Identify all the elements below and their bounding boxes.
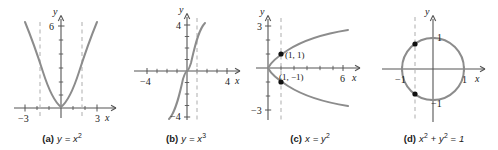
caption-d-equation: x2 + y2 = 1 bbox=[419, 133, 464, 144]
y-axis-label-b: y bbox=[178, 4, 184, 15]
x-axis-label-b: x bbox=[234, 75, 240, 86]
panel-d: −1 1 x 1 −1 y (d)x2 + y2 = 1 bbox=[372, 0, 496, 150]
panel-a: −3 3 x 6 y (a)y = x2 bbox=[0, 0, 124, 150]
x-axis-a bbox=[14, 105, 116, 112]
plot-d-unit-circle: −1 1 x 1 −1 y bbox=[372, 0, 496, 126]
caption-b-tag: (b) bbox=[166, 133, 178, 144]
x-tick-label-a-neg3: −3 bbox=[18, 113, 29, 124]
caption-d-tag: (d) bbox=[404, 133, 416, 144]
y-tick-label-b-4: 4 bbox=[176, 20, 181, 31]
plot-a-y-equals-x-squared: −3 3 x 6 y bbox=[0, 0, 124, 126]
point-label-c-1-1: (1, 1) bbox=[285, 50, 305, 60]
x-tick-label-b-4: 4 bbox=[225, 76, 230, 87]
y-axis-a bbox=[58, 16, 65, 119]
caption-c-equation: x = y2 bbox=[305, 133, 330, 144]
x-tick-label-d-1: 1 bbox=[462, 74, 467, 85]
caption-b: (b)y = x3 bbox=[124, 132, 248, 144]
caption-c: (c)x = y2 bbox=[248, 132, 372, 144]
caption-a: (a)y = x2 bbox=[0, 132, 124, 144]
caption-b-equation: y = x3 bbox=[181, 133, 206, 144]
plot-c-x-equals-y-squared: (1, 1) (1, −1) 6 x 3 −3 y bbox=[248, 0, 372, 126]
point-c-1-1 bbox=[278, 51, 283, 56]
plot-b-y-equals-x-cubed: −4 4 x 4 −4 y bbox=[124, 0, 248, 126]
y-tick-label-d-neg1: −1 bbox=[431, 98, 442, 109]
y-axis-label-d: y bbox=[424, 6, 430, 17]
y-tick-label-a-6: 6 bbox=[49, 21, 54, 32]
panel-b: −4 4 x 4 −4 y (b)y = x3 bbox=[124, 0, 248, 150]
x-axis-label-c: x bbox=[351, 72, 357, 83]
x-tick-label-a-3: 3 bbox=[95, 113, 100, 124]
y-axis-label-c: y bbox=[259, 6, 265, 17]
point-label-c-1-neg1: (1, −1) bbox=[279, 72, 304, 82]
y-axis-label-a: y bbox=[52, 6, 58, 17]
x-tick-label-d-neg1: −1 bbox=[395, 74, 406, 85]
caption-d: (d)x2 + y2 = 1 bbox=[372, 132, 496, 144]
y-tick-label-c-3: 3 bbox=[257, 21, 262, 32]
y-tick-label-b-neg4: −4 bbox=[170, 111, 181, 122]
y-tick-label-c-neg3: −3 bbox=[251, 105, 262, 116]
vertical-line-test-figure: −3 3 x 6 y (a)y = x2 bbox=[0, 0, 498, 150]
caption-a-equation: y = x2 bbox=[57, 133, 82, 144]
x-tick-label-c-6: 6 bbox=[340, 73, 345, 84]
x-tick-label-b-neg4: −4 bbox=[140, 76, 151, 87]
x-axis-label-a: x bbox=[104, 112, 110, 123]
caption-a-tag: (a) bbox=[42, 133, 54, 144]
x-axis-c bbox=[256, 65, 360, 71]
x-axis-label-d: x bbox=[474, 73, 480, 84]
y-tick-label-d-1: 1 bbox=[437, 32, 442, 43]
point-d-upper bbox=[412, 41, 417, 46]
point-d-lower bbox=[412, 91, 417, 96]
panel-c: (1, 1) (1, −1) 6 x 3 −3 y (c)x = y2 bbox=[248, 0, 372, 150]
caption-c-tag: (c) bbox=[290, 133, 302, 144]
